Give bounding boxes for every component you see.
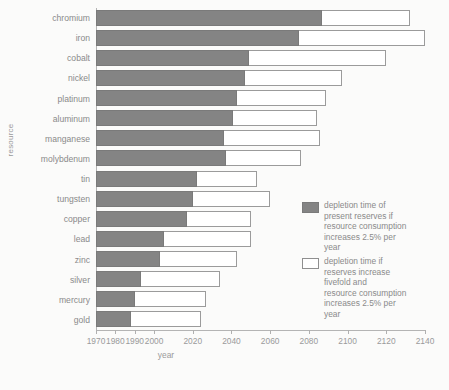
- category-label: mercury: [18, 295, 90, 305]
- x-axis-tick-label: 2020: [173, 336, 213, 346]
- category-label: chromium: [18, 13, 90, 23]
- x-axis-tick-label: 2140: [405, 336, 445, 346]
- bar-row: [96, 50, 426, 67]
- x-axis-tick: [348, 330, 349, 334]
- legend-label-line: year: [324, 309, 444, 320]
- legend: depletion time ofpresent reserves ifreso…: [302, 200, 444, 323]
- x-axis-tick-label: 2100: [328, 336, 368, 346]
- category-label: aluminum: [18, 114, 90, 124]
- x-axis-tick: [231, 330, 232, 334]
- bar-row: [96, 70, 426, 87]
- bar-present-reserves: [96, 90, 237, 106]
- bar-row: [96, 150, 426, 167]
- x-axis-tick-label: 2120: [366, 336, 406, 346]
- legend-label-line: resource consumption: [324, 221, 444, 232]
- bar-present-reserves: [96, 50, 249, 66]
- bar-row: [96, 30, 426, 47]
- x-axis-title: year: [96, 350, 236, 360]
- x-axis-tick-label: 2040: [211, 336, 251, 346]
- x-axis: year 19701980199020002020204020602080210…: [96, 330, 426, 370]
- bar-row: [96, 90, 426, 107]
- category-label: nickel: [18, 73, 90, 83]
- category-label: iron: [18, 33, 90, 43]
- legend-label-line: depletion time of: [324, 200, 444, 211]
- bar-present-reserves: [96, 191, 193, 207]
- bar-row: [96, 110, 426, 127]
- bar-present-reserves: [96, 130, 224, 146]
- bar-present-reserves: [96, 231, 164, 247]
- legend-label-line: depletion time if: [324, 256, 444, 267]
- x-axis-tick: [135, 330, 136, 334]
- x-axis-tick-label: 2080: [289, 336, 329, 346]
- bar-row: [96, 171, 426, 188]
- legend-label-line: fivefold and: [324, 277, 444, 288]
- x-axis-tick: [309, 330, 310, 334]
- legend-label-line: resource consumption: [324, 288, 444, 299]
- legend-entry: depletion time ifreserves increasefivefo…: [302, 256, 444, 320]
- bar-present-reserves: [96, 70, 245, 86]
- x-axis-tick: [270, 330, 271, 334]
- x-axis-tick: [193, 330, 194, 334]
- category-label: zinc: [18, 255, 90, 265]
- bar-present-reserves: [96, 271, 141, 287]
- legend-label-line: present reserves if: [324, 211, 444, 222]
- category-label: platinum: [18, 94, 90, 104]
- legend-label-line: increases 2.5% per: [324, 298, 444, 309]
- legend-swatch-hollow: [302, 258, 319, 269]
- bar-present-reserves: [96, 110, 233, 126]
- bar-present-reserves: [96, 10, 322, 26]
- category-label: manganese: [18, 134, 90, 144]
- legend-label-line: year: [324, 242, 444, 253]
- category-label: lead: [18, 234, 90, 244]
- legend-label-line: increases 2.5% per: [324, 232, 444, 243]
- bar-present-reserves: [96, 150, 226, 166]
- category-label: molybdenum: [18, 154, 90, 164]
- bar-row: [96, 10, 426, 27]
- x-axis-tick: [386, 330, 387, 334]
- category-label: copper: [18, 214, 90, 224]
- bar-present-reserves: [96, 251, 160, 267]
- category-label: silver: [18, 275, 90, 285]
- x-axis-tick: [96, 330, 97, 334]
- bar-present-reserves: [96, 171, 197, 187]
- x-axis-tick: [154, 330, 155, 334]
- x-axis-tick-label: 2000: [134, 336, 174, 346]
- x-axis-tick-label: 2060: [250, 336, 290, 346]
- legend-swatch-filled: [302, 202, 319, 213]
- category-label: cobalt: [18, 53, 90, 63]
- bar-present-reserves: [96, 311, 131, 327]
- x-axis-tick: [115, 330, 116, 334]
- bar-present-reserves: [96, 211, 187, 227]
- resource-depletion-bar-chart: resource chromiumironcobaltnickelplatinu…: [0, 0, 449, 390]
- legend-label-line: reserves increase: [324, 267, 444, 278]
- category-label: gold: [18, 315, 90, 325]
- y-axis-title: resource: [6, 105, 15, 175]
- bar-present-reserves: [96, 291, 135, 307]
- category-label-column: chromiumironcobaltnickelplatinumaluminum…: [18, 8, 90, 330]
- legend-entry: depletion time ofpresent reserves ifreso…: [302, 200, 444, 253]
- x-axis-line: [96, 330, 426, 331]
- category-label: tungsten: [18, 194, 90, 204]
- bar-row: [96, 130, 426, 147]
- bar-present-reserves: [96, 30, 299, 46]
- category-label: tin: [18, 174, 90, 184]
- x-axis-tick: [425, 330, 426, 334]
